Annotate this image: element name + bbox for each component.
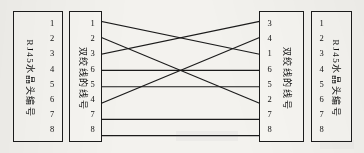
pin-value: 4 xyxy=(90,95,94,104)
panel-right-wire-numbers-pins: 3 4 1 6 5 2 7 8 xyxy=(263,19,276,134)
panel-right-connector-pins: 1 2 3 4 5 6 7 8 xyxy=(315,19,328,134)
wire-4-to-4 xyxy=(102,38,259,103)
pin-value: 8 xyxy=(90,125,94,134)
pin-value: 7 xyxy=(267,110,271,119)
pin-value: 3 xyxy=(319,49,323,58)
pin-value: 1 xyxy=(319,19,323,28)
pin-value: 4 xyxy=(50,65,54,74)
panel-right-connector-label: RJ45水晶头编号 xyxy=(330,20,343,138)
pin-value: 1 xyxy=(267,49,271,58)
pin-value: 8 xyxy=(319,125,323,134)
panel-left-connector-label: RJ45水晶头编号 xyxy=(24,20,37,138)
wire-2-to-2 xyxy=(102,38,259,103)
pin-value: 1 xyxy=(50,19,54,28)
pin-value: 3 xyxy=(90,49,94,58)
panel-left-connector-pins: 1 2 3 4 5 6 7 8 xyxy=(45,19,59,134)
pin-value: 5 xyxy=(90,80,94,89)
pin-value: 8 xyxy=(267,125,271,134)
pin-value: 4 xyxy=(319,65,323,74)
pin-value: 6 xyxy=(267,65,271,74)
pin-value: 6 xyxy=(50,95,54,104)
pin-value: 7 xyxy=(319,110,323,119)
pin-value: 3 xyxy=(267,19,271,28)
pin-value: 2 xyxy=(90,34,94,43)
scan-artifact xyxy=(176,131,238,141)
pin-value: 4 xyxy=(267,34,271,43)
pin-value: 5 xyxy=(319,80,323,89)
wiring-diagram: RJ45水晶头编号 1 2 3 4 5 6 7 8 双绞线的线号 1 2 3 6… xyxy=(0,0,364,153)
pin-value: 7 xyxy=(50,110,54,119)
pin-value: 8 xyxy=(50,125,54,134)
pin-value: 5 xyxy=(267,80,271,89)
pin-value: 2 xyxy=(267,95,271,104)
pin-value: 6 xyxy=(319,95,323,104)
pin-value: 6 xyxy=(90,65,94,74)
wire-1-to-1 xyxy=(102,22,259,55)
pin-value: 2 xyxy=(50,34,54,43)
panel-right-wire-numbers-label: 双绞线的线号 xyxy=(281,20,294,138)
pin-value: 7 xyxy=(90,110,94,119)
pin-value: 1 xyxy=(90,19,94,28)
pin-value: 3 xyxy=(50,49,54,58)
panel-left-wire-numbers-pins: 1 2 3 6 5 4 7 8 xyxy=(86,19,99,134)
pin-value: 2 xyxy=(319,34,323,43)
pin-value: 5 xyxy=(50,80,54,89)
wire-3-to-3 xyxy=(102,22,259,55)
